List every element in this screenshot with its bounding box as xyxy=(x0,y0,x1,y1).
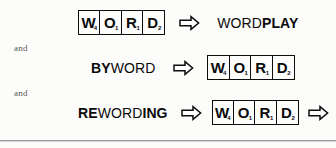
tile-score: 1 xyxy=(249,115,252,121)
word-part: WORD xyxy=(217,15,262,31)
tile-letter: R xyxy=(126,15,137,30)
tile-score: 4 xyxy=(227,115,230,121)
row-wordplay: W 4 O 1 R 1 D 2 WORDPLAY xyxy=(78,10,298,35)
rightwards-hollow-arrow-icon xyxy=(181,104,203,122)
tile-score: 1 xyxy=(136,25,139,31)
scrabble-tile: O 1 xyxy=(99,10,122,35)
scrabble-rack: W 4 O 1 R 1 D 2 xyxy=(78,10,165,35)
conjunction-and-second: and xyxy=(14,88,28,98)
tile-letter: O xyxy=(233,60,245,75)
word-part: BY xyxy=(91,60,111,76)
tile-score: 1 xyxy=(266,70,269,76)
scrabble-tile: R 1 xyxy=(250,55,273,80)
scrabble-tile: D 2 xyxy=(142,10,165,35)
conjunction-and-first: and xyxy=(14,43,28,53)
tile-score: 1 xyxy=(244,70,247,76)
tile-score: 4 xyxy=(223,70,226,76)
rightwards-hollow-arrow-icon xyxy=(178,14,200,32)
rightwards-hollow-arrow-icon-trailing xyxy=(308,104,330,122)
tile-letter: R xyxy=(255,60,266,75)
tile-score: 2 xyxy=(291,115,294,121)
tile-score: 2 xyxy=(287,70,290,76)
scrabble-rack: W 4 O 1 R 1 D 2 xyxy=(212,100,299,125)
wordplay-diagram: and and W 4 O 1 R 1 D 2 xyxy=(0,0,336,148)
row-byword: BYWORD W 4 O 1 R 1 D 2 xyxy=(78,55,295,80)
rightwards-hollow-arrow-icon xyxy=(172,59,194,77)
word-label-rewording: REWORDING xyxy=(78,106,168,120)
tile-letter: D xyxy=(277,60,288,75)
tile-letter: O xyxy=(238,105,250,120)
word-part: WORD xyxy=(111,60,156,76)
word-part: ING xyxy=(142,105,167,121)
scrabble-tile: O 1 xyxy=(233,100,256,125)
scrabble-tile: W 4 xyxy=(207,55,230,80)
word-part: RE xyxy=(78,105,98,121)
scrabble-tile: W 4 xyxy=(78,10,101,35)
scrabble-tile: R 1 xyxy=(254,100,277,125)
tile-score: 1 xyxy=(270,115,273,121)
scrabble-tile: D 2 xyxy=(276,100,299,125)
tile-score: 1 xyxy=(115,25,118,31)
tile-letter: D xyxy=(281,105,292,120)
word-part: WORD xyxy=(98,105,143,121)
tile-letter: R xyxy=(259,105,270,120)
scrabble-tile: O 1 xyxy=(229,55,252,80)
scrabble-rack: W 4 O 1 R 1 D 2 xyxy=(207,55,294,80)
scrabble-tile: W 4 xyxy=(212,100,235,125)
word-part: PLAY xyxy=(262,15,298,31)
tile-score: 2 xyxy=(158,25,161,31)
word-label-wordplay: WORDPLAY xyxy=(217,16,298,30)
scrabble-tile: D 2 xyxy=(272,55,295,80)
row-rewording: REWORDING W 4 O 1 R 1 D 2 xyxy=(78,100,330,125)
tile-score: 4 xyxy=(94,25,97,31)
tile-letter: O xyxy=(104,15,116,30)
word-label-byword: BYWORD xyxy=(91,61,155,75)
tile-letter: D xyxy=(147,15,158,30)
horizontal-rule-shadow xyxy=(0,141,336,142)
scrabble-tile: R 1 xyxy=(121,10,144,35)
